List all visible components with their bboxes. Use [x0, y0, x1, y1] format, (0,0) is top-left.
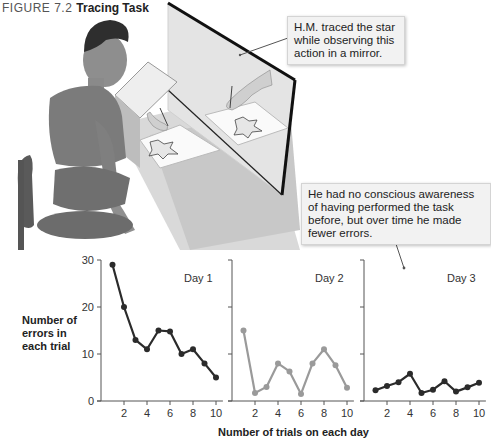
x-tick-label: 2: [121, 407, 127, 419]
data-point: [156, 328, 162, 334]
data-point: [333, 362, 339, 368]
data-point: [321, 346, 327, 352]
series-line: [376, 374, 480, 393]
data-point: [407, 371, 413, 377]
data-point: [344, 385, 350, 391]
panel-label-day-1: Day 1: [184, 272, 213, 284]
callout-pointer-mirror: [240, 38, 288, 55]
x-axis-label: Number of trials on each day: [218, 426, 369, 438]
x-tick-label: 6: [298, 407, 304, 419]
data-point: [202, 360, 208, 366]
x-tick-label: 10: [341, 407, 353, 419]
data-point: [373, 387, 379, 393]
series-line: [244, 331, 348, 394]
panel-label-day-2: Day 2: [315, 272, 344, 284]
x-tick-label: 2: [252, 407, 258, 419]
x-tick-label: 8: [453, 407, 459, 419]
data-point: [310, 360, 316, 366]
data-point: [110, 262, 116, 268]
x-tick-label: 4: [144, 407, 150, 419]
data-point: [213, 375, 219, 381]
x-tick-label: 8: [190, 407, 196, 419]
tracing-illustration: [18, 3, 300, 250]
panel-label-day-3: Day 3: [447, 272, 476, 284]
data-point: [419, 390, 425, 396]
data-point: [264, 384, 270, 390]
x-tick-label: 4: [407, 407, 413, 419]
y-tick-label: 20: [82, 301, 94, 313]
data-point: [252, 390, 258, 396]
y-tick-label: 30: [82, 254, 94, 266]
data-point: [465, 384, 471, 390]
data-point: [144, 346, 150, 352]
data-point: [476, 380, 482, 386]
callout-mirror: H.M. traced the star while observing thi…: [287, 16, 405, 65]
data-point: [298, 391, 304, 397]
callout-awareness: He had no conscious awareness of having …: [301, 183, 491, 245]
data-point: [190, 346, 196, 352]
data-point: [133, 337, 139, 343]
y-tick-label: 10: [82, 348, 94, 360]
data-point: [179, 351, 185, 357]
y-axis-label: Number of errors in each trial: [22, 314, 82, 353]
data-point: [287, 368, 293, 374]
x-tick-label: 6: [167, 407, 173, 419]
data-point: [167, 328, 173, 334]
data-point: [453, 389, 459, 395]
data-point: [396, 379, 402, 385]
x-tick-label: 8: [321, 407, 327, 419]
y-tick-label: 0: [88, 395, 94, 407]
data-point: [241, 328, 247, 334]
x-tick-label: 10: [473, 407, 485, 419]
data-point: [442, 378, 448, 384]
y-axis-label-text: Number of errors in each trial: [22, 314, 77, 352]
x-tick-label: 4: [275, 407, 281, 419]
data-point: [430, 387, 436, 393]
error-charts: 0102030246810246810246810: [82, 254, 486, 419]
data-point: [121, 304, 127, 310]
x-tick-label: 10: [210, 407, 222, 419]
x-tick-label: 2: [384, 407, 390, 419]
x-tick-label: 6: [430, 407, 436, 419]
data-point: [275, 360, 281, 366]
data-point: [384, 383, 390, 389]
